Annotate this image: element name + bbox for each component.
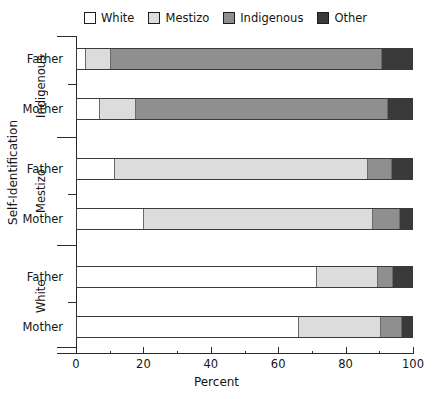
bar-mestizo-mother[interactable] xyxy=(76,208,413,230)
y-axis-tick xyxy=(68,302,76,303)
y-axis-tick xyxy=(68,84,76,85)
stacked-bar-chart: White Mestizo Indigenous Other Self-Iden… xyxy=(0,0,433,399)
bar-indigenous-mother[interactable] xyxy=(76,98,413,120)
bar-indigenous-father[interactable] xyxy=(76,48,413,70)
x-axis-left-extension xyxy=(57,353,77,354)
y-axis-line xyxy=(76,36,77,347)
x-axis-minor-tick xyxy=(245,351,246,354)
bar-segment-indigenous[interactable] xyxy=(377,267,392,287)
x-axis-tick xyxy=(278,347,279,354)
bar-segment-other[interactable] xyxy=(399,209,412,229)
bar-mestizo-father[interactable] xyxy=(76,158,413,180)
bar-segment-indigenous[interactable] xyxy=(367,159,391,179)
legend-label-mestizo: Mestizo xyxy=(165,12,209,24)
y-axis-group-separator xyxy=(57,137,77,138)
y-axis-group-separator xyxy=(57,347,77,348)
y-axis-group-separator xyxy=(57,36,77,37)
y-axis-bar-label-indigenous-mother: Mother xyxy=(0,102,66,116)
bar-segment-white[interactable] xyxy=(77,99,99,119)
legend-swatch-white-icon xyxy=(84,12,96,24)
y-axis-bar-label-white-father: Father xyxy=(0,270,66,284)
legend-item-other[interactable]: Other xyxy=(317,12,367,24)
x-axis-title: Percent xyxy=(0,375,433,389)
chart-legend: White Mestizo Indigenous Other xyxy=(84,8,424,28)
x-axis-tick-label: 40 xyxy=(203,357,218,371)
legend-item-white[interactable]: White xyxy=(84,12,134,24)
y-axis-bar-label-white-mother: Mother xyxy=(0,320,66,334)
legend-swatch-indigenous-icon xyxy=(223,12,235,24)
y-axis-bar-label-mestizo-mother: Mother xyxy=(0,212,66,226)
x-axis-tick xyxy=(143,347,144,354)
bar-segment-indigenous[interactable] xyxy=(135,99,388,119)
x-axis-minor-tick xyxy=(379,351,380,354)
y-axis-tick xyxy=(68,194,76,195)
bar-segment-white[interactable] xyxy=(77,49,85,69)
bar-segment-mestizo[interactable] xyxy=(298,317,380,337)
x-axis-minor-tick xyxy=(110,351,111,354)
bar-segment-white[interactable] xyxy=(77,159,114,179)
bar-white-mother[interactable] xyxy=(76,316,413,338)
x-axis-tick-label: 60 xyxy=(271,357,286,371)
bar-segment-mestizo[interactable] xyxy=(99,99,135,119)
legend-label-white: White xyxy=(101,12,134,24)
bar-segment-white[interactable] xyxy=(77,267,316,287)
legend-label-indigenous: Indigenous xyxy=(240,12,303,24)
x-axis-tick-label: 80 xyxy=(338,357,353,371)
legend-item-mestizo[interactable]: Mestizo xyxy=(148,12,209,24)
legend-swatch-other-icon xyxy=(317,12,329,24)
x-axis-tick xyxy=(76,347,77,354)
y-axis-bar-label-mestizo-father: Father xyxy=(0,162,66,176)
bar-segment-other[interactable] xyxy=(387,99,412,119)
x-axis-tick-label: 20 xyxy=(136,357,151,371)
x-axis-tick-label: 0 xyxy=(72,357,79,371)
bar-segment-mestizo[interactable] xyxy=(114,159,367,179)
bar-segment-mestizo[interactable] xyxy=(143,209,372,229)
bar-segment-other[interactable] xyxy=(391,159,412,179)
bar-segment-indigenous[interactable] xyxy=(380,317,401,337)
y-axis-bar-label-indigenous-father: Father xyxy=(0,52,66,66)
bar-segment-white[interactable] xyxy=(77,317,298,337)
bar-segment-other[interactable] xyxy=(381,49,412,69)
bar-white-father[interactable] xyxy=(76,266,413,288)
x-axis-minor-tick xyxy=(312,351,313,354)
x-axis-tick-label: 100 xyxy=(402,357,424,371)
bar-segment-mestizo[interactable] xyxy=(316,267,378,287)
x-axis-tick xyxy=(413,347,414,354)
bar-segment-mestizo[interactable] xyxy=(85,49,109,69)
legend-label-other: Other xyxy=(334,12,367,24)
bar-segment-indigenous[interactable] xyxy=(372,209,399,229)
y-axis-group-separator xyxy=(57,245,77,246)
x-axis-tick xyxy=(211,347,212,354)
x-axis-minor-tick xyxy=(177,351,178,354)
legend-item-indigenous[interactable]: Indigenous xyxy=(223,12,303,24)
bar-segment-indigenous[interactable] xyxy=(110,49,381,69)
legend-swatch-mestizo-icon xyxy=(148,12,160,24)
bar-segment-white[interactable] xyxy=(77,209,143,229)
bar-segment-other[interactable] xyxy=(401,317,412,337)
x-axis-tick xyxy=(346,347,347,354)
bar-segment-other[interactable] xyxy=(392,267,412,287)
